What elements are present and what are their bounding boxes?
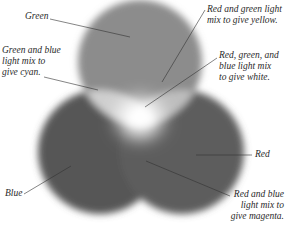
label-green: Green — [25, 11, 48, 22]
label-yellow: Red and green light mix to give yellow. — [207, 4, 282, 26]
label-white: Red, green, and blue light mix to give w… — [219, 50, 279, 83]
label-red: Red — [255, 149, 270, 160]
label-blue: Blue — [5, 188, 22, 199]
white-glow — [118, 98, 162, 138]
additive-color-diagram: Green Green and blue light mix to give c… — [0, 0, 286, 226]
label-magenta: Red and blue light mix to give magenta. — [222, 189, 284, 222]
label-cyan: Green and blue light mix to give cyan. — [2, 45, 61, 78]
